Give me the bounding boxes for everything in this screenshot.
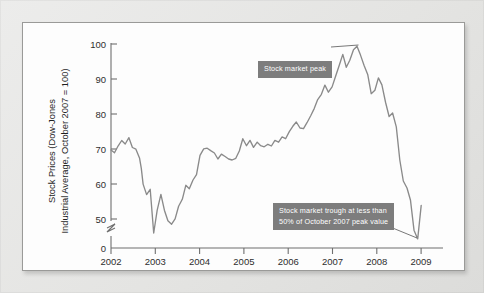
x-tick-label-2006: 2006 [278, 256, 299, 267]
y-tick-label-60: 60 [95, 179, 106, 190]
x-axis-tick-labels: 2002 2003 2004 2005 2006 2007 2008 2009 [100, 256, 431, 267]
x-tick-label-2004: 2004 [189, 256, 210, 267]
annotation-trough-line1: Stock market trough at less than [279, 206, 387, 215]
y-axis-title: Stock Prices (Dow-Jones Industrial Avera… [47, 69, 70, 234]
chart-plot-area: 100 90 80 70 60 50 0 2002 [23, 23, 464, 270]
annotation-stock-market-peak: Stock market peak [258, 61, 332, 78]
y-tick-label-90: 90 [95, 74, 106, 85]
chart-panel: 100 90 80 70 60 50 0 2002 [22, 22, 465, 271]
y-axis-break-symbol [107, 224, 115, 232]
x-tick-label-2002: 2002 [100, 256, 121, 267]
y-tick-label-50: 50 [95, 214, 106, 225]
annotation-trough-line2: 50% of October 2007 peak value [279, 217, 388, 228]
y-axis-title-line1: Stock Prices (Dow-Jones [47, 99, 57, 203]
y-tick-label-0: 0 [101, 243, 106, 254]
annotation-stock-market-trough: Stock market trough at less than 50% of … [273, 203, 394, 230]
y-tick-label-100: 100 [90, 39, 106, 50]
x-axis-ticks [111, 248, 421, 254]
y-axis-ticks [111, 44, 117, 219]
x-tick-label-2003: 2003 [145, 256, 166, 267]
x-tick-label-2009: 2009 [411, 256, 432, 267]
y-tick-label-80: 80 [95, 109, 106, 120]
annotation-peak-text: Stock market peak [264, 64, 326, 73]
y-axis-tick-labels: 100 90 80 70 60 50 0 [90, 39, 106, 254]
y-axis-title-line2: Industrial Average, October 2007 = 100) [60, 69, 70, 234]
x-tick-label-2008: 2008 [366, 256, 387, 267]
figure-container: 100 90 80 70 60 50 0 2002 [0, 0, 484, 293]
x-tick-label-2005: 2005 [233, 256, 254, 267]
y-tick-label-70: 70 [95, 144, 106, 155]
x-tick-label-2007: 2007 [322, 256, 343, 267]
peak-annotation-leader-line [331, 45, 359, 47]
